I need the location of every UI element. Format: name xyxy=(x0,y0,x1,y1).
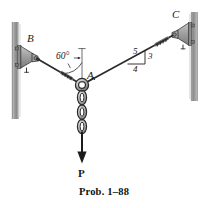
label-point-c: C xyxy=(172,9,179,20)
label-angle-60: 60° xyxy=(56,52,69,62)
cable-ac xyxy=(86,36,172,83)
force-arrow-p xyxy=(77,132,86,164)
bracket-b xyxy=(15,46,38,73)
left-wall xyxy=(12,22,21,119)
label-slope-vertical-3: 3 xyxy=(148,52,153,61)
problem-figure: B C A 60° 5 3 4 P Prob. 1–88 xyxy=(0,0,208,208)
label-force-p: P xyxy=(78,168,85,179)
cable-ab xyxy=(37,58,78,82)
vertical-reference-line xyxy=(78,48,85,79)
chain-link xyxy=(77,90,86,104)
turnbuckle-ac xyxy=(156,38,168,46)
chain xyxy=(77,90,86,133)
label-slope-horizontal-4: 4 xyxy=(133,65,138,74)
figure-caption: Prob. 1–88 xyxy=(0,186,208,197)
chain-link xyxy=(77,105,86,119)
label-point-a: A xyxy=(87,70,94,81)
label-point-b: B xyxy=(27,33,34,44)
label-slope-hypotenuse-5: 5 xyxy=(133,47,138,56)
bracket-c xyxy=(172,23,194,50)
